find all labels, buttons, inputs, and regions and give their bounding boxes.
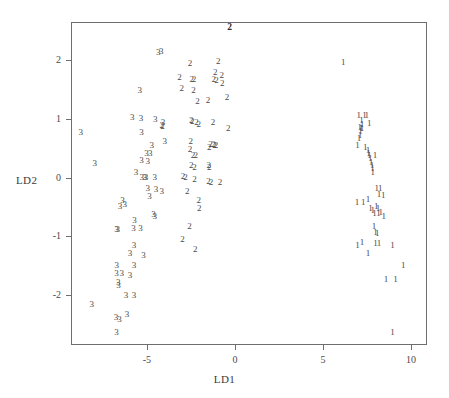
- y-axis-tick-label: -2: [41, 290, 61, 300]
- y-axis-tick: [66, 178, 71, 179]
- x-axis-tick-label: -5: [143, 355, 151, 365]
- x-axis-tick-label: 10: [406, 355, 416, 365]
- x-axis-tick: [235, 345, 236, 350]
- x-axis-tick-label: 0: [232, 355, 237, 365]
- plot-frame: [71, 22, 427, 345]
- scatter-plot: 1111111111111111111111111111111111111111…: [0, 0, 449, 398]
- y-axis-tick-label: 0: [41, 173, 61, 183]
- x-axis-title: LD1: [0, 374, 449, 385]
- y-axis-tick: [66, 295, 71, 296]
- y-axis-tick: [66, 236, 71, 237]
- y-axis-tick: [66, 60, 71, 61]
- x-axis-tick: [411, 345, 412, 350]
- y-axis-tick-label: 1: [41, 114, 61, 124]
- x-axis-tick-label: 5: [321, 355, 326, 365]
- x-axis-tick: [147, 345, 148, 350]
- y-axis-tick: [66, 119, 71, 120]
- y-axis-tick-label: -1: [41, 231, 61, 241]
- x-axis-tick: [323, 345, 324, 350]
- y-axis-title: LD2: [16, 175, 37, 186]
- y-axis-tick-label: 2: [41, 55, 61, 65]
